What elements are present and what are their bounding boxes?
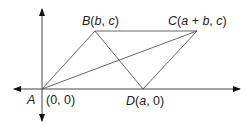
label-D: D(a, 0) — [126, 94, 164, 108]
label-C: C(a + b, c) — [168, 14, 227, 28]
edge-CD — [143, 31, 197, 89]
label-B: B(b, c) — [82, 14, 119, 28]
label-A-coords: (0, 0) — [46, 93, 75, 107]
diagonal-BD — [95, 31, 143, 89]
edge-AB — [42, 31, 95, 89]
parallelogram-diagram: B(b, c) C(a + b, c) A (0, 0) D(a, 0) — [0, 0, 249, 125]
label-A: A — [26, 93, 35, 107]
